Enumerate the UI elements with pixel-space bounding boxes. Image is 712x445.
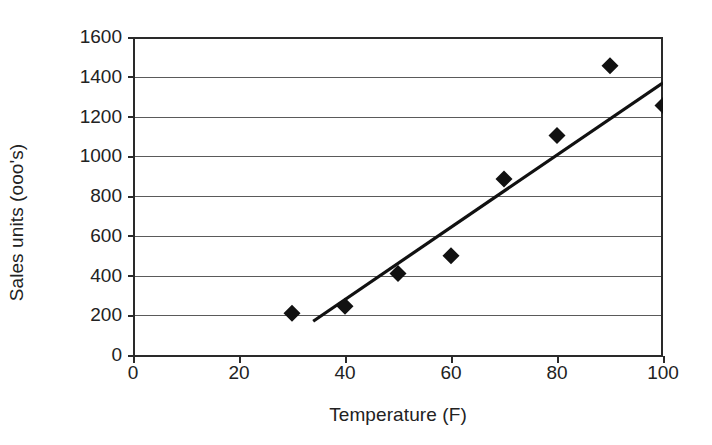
x-tick-label: 0 [98, 362, 168, 384]
y-tick-label: 200 [58, 304, 122, 326]
x-axis-title: Temperature (F) [133, 404, 663, 426]
y-tick-label: 1200 [58, 106, 122, 128]
data-point-marker [655, 97, 664, 114]
data-point-marker [602, 57, 619, 74]
y-tick-label: 1400 [58, 66, 122, 88]
x-tick-label: 60 [416, 362, 486, 384]
trendline [313, 83, 663, 322]
plot-area [133, 37, 663, 355]
y-axis-title: Sales units (ooo's) [0, 0, 34, 445]
scatter-chart: Sales units (ooo's) 02004006008001000120… [0, 0, 712, 445]
data-point-marker [337, 298, 354, 315]
x-tick-label: 20 [204, 362, 274, 384]
x-tick-label: 100 [628, 362, 698, 384]
y-tick-label: 1000 [58, 145, 122, 167]
y-tick-label: 600 [58, 225, 122, 247]
data-point-marker [284, 305, 301, 322]
data-point-marker [443, 247, 460, 264]
trendline-segment [313, 83, 663, 322]
y-tick-label: 800 [58, 185, 122, 207]
data-point-marker [496, 171, 513, 188]
data-point-marker [549, 127, 566, 144]
x-tick-label: 40 [310, 362, 380, 384]
y-tick-label: 400 [58, 265, 122, 287]
plot-svg [133, 37, 663, 355]
x-tick-label: 80 [522, 362, 592, 384]
y-tick-label: 1600 [58, 26, 122, 48]
data-markers [284, 57, 664, 321]
